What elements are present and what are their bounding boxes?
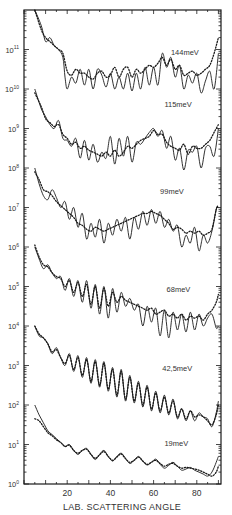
y-tick-label: 101 bbox=[8, 439, 19, 450]
series-label: 19meV bbox=[164, 439, 188, 448]
experiment-curve-42.5meV bbox=[35, 326, 219, 425]
scattering-angle-chart: 10010110210310410510610710810910101011 2… bbox=[0, 0, 232, 515]
series-label: 68meV bbox=[167, 285, 191, 294]
y-tick-label: 102 bbox=[8, 400, 19, 411]
x-axis-label: LAB. SCATTERING ANGLE bbox=[63, 502, 181, 512]
y-tick-label: 1010 bbox=[5, 84, 19, 95]
y-tick-label: 106 bbox=[8, 242, 19, 253]
y-tick-label: 107 bbox=[8, 202, 19, 213]
curves-group bbox=[35, 10, 219, 476]
experiment-curve-99meV bbox=[35, 172, 219, 235]
y-tick-label: 100 bbox=[8, 479, 19, 490]
y-tick-label: 103 bbox=[8, 360, 19, 371]
series-label: 99meV bbox=[160, 187, 184, 196]
series-label: 115meV bbox=[164, 100, 191, 109]
x-tick-label: 20 bbox=[62, 488, 72, 498]
y-tick-label: 105 bbox=[8, 281, 19, 292]
experiment-curve-68meV bbox=[35, 245, 219, 320]
y-tick-label: 109 bbox=[8, 123, 19, 134]
y-tick-label: 104 bbox=[8, 321, 19, 332]
experiment-curve-144meV bbox=[35, 10, 219, 79]
theory-curve-19meV bbox=[35, 405, 219, 476]
y-tick-label: 108 bbox=[8, 163, 19, 174]
y-tick-label: 1011 bbox=[5, 44, 19, 55]
x-tick-label: 40 bbox=[106, 488, 116, 498]
series-label: 144meV bbox=[171, 48, 199, 57]
x-tick-label: 60 bbox=[149, 488, 159, 498]
series-label: 42,5meV bbox=[162, 364, 192, 373]
x-tick-label: 80 bbox=[192, 488, 202, 498]
theory-curve-68meV bbox=[35, 247, 219, 338]
series-labels: 144meV115meV99meV68meV42,5meV19meV bbox=[160, 48, 199, 448]
theory-curve-99meV bbox=[35, 168, 219, 251]
